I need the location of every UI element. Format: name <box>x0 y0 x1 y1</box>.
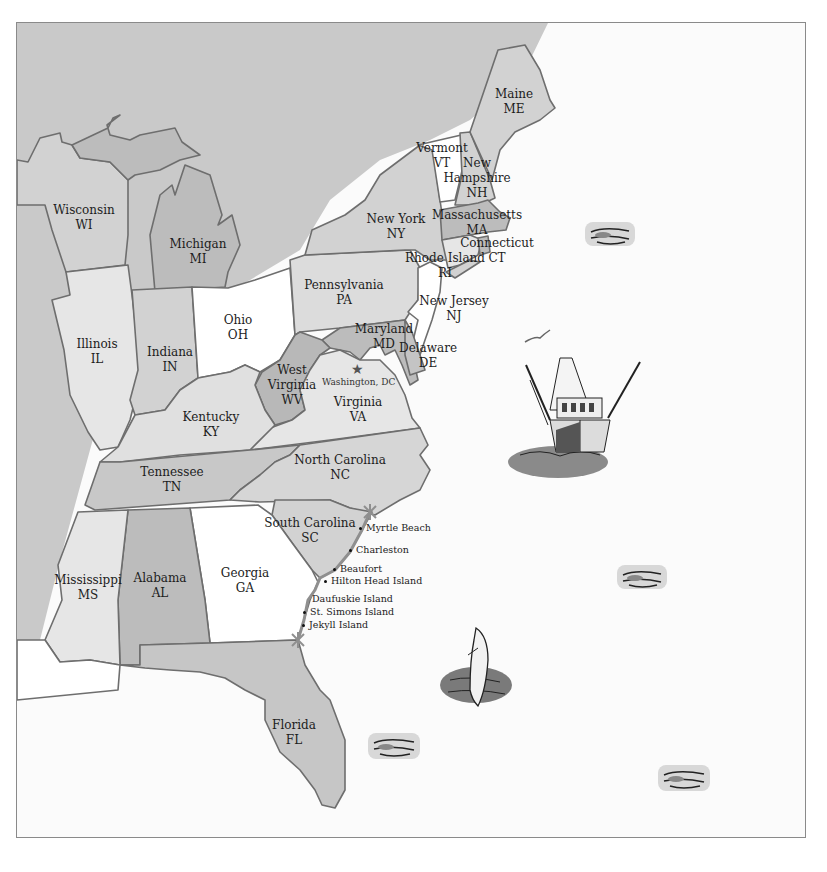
place-st-simons: St. Simons Island <box>303 606 394 617</box>
place-charleston: Charleston <box>349 544 409 555</box>
place-myrtle-beach: Myrtle Beach <box>359 522 431 533</box>
dolphin-icon <box>440 628 512 706</box>
label-PA: PennsylvaniaPA <box>304 278 384 308</box>
map-canvas <box>0 0 827 872</box>
label-MS: MississippiMS <box>54 573 122 603</box>
dot-icon <box>324 580 327 583</box>
label-VA: VirginiaVA <box>334 395 382 425</box>
place-hilton-head: Hilton Head Island <box>324 575 422 586</box>
wave-icon <box>617 565 667 589</box>
capital-label: Washington, DC <box>322 377 395 387</box>
seagull-icon <box>525 330 550 342</box>
label-OH: OhioOH <box>224 313 253 343</box>
label-NY: New YorkNY <box>367 212 426 242</box>
label-ME: MaineME <box>495 87 533 117</box>
label-NC: North CarolinaNC <box>294 453 386 483</box>
star-icon: ★ <box>351 362 364 376</box>
label-KY: KentuckyKY <box>183 410 240 440</box>
label-WI: WisconsinWI <box>53 203 115 233</box>
label-IN: IndianaIN <box>147 345 193 375</box>
wave-icon <box>658 765 710 791</box>
label-AL: AlabamaAL <box>133 571 186 601</box>
dot-icon <box>359 527 362 530</box>
dot-icon <box>333 568 336 571</box>
label-MA: MassachusettsMA <box>432 208 522 238</box>
fishing-boat-icon <box>508 358 640 478</box>
label-TN: TennesseeTN <box>140 465 203 495</box>
label-RI: Rhode IslandRI <box>405 251 485 281</box>
dot-icon <box>302 624 305 627</box>
dot-icon <box>303 611 306 614</box>
label-SC: South CarolinaSC <box>264 516 355 546</box>
wave-icon <box>585 222 635 246</box>
label-GA: GeorgiaGA <box>221 566 269 596</box>
label-NJ: New JerseyNJ <box>419 294 488 324</box>
label-IL: IllinoisIL <box>76 337 117 367</box>
place-daufuskie: Daufuskie Island <box>312 593 393 604</box>
place-beaufort: Beaufort <box>333 563 382 574</box>
label-NH: NewHampshireNH <box>443 156 510 201</box>
place-jekyll: Jekyll Island <box>302 619 368 630</box>
label-FL: FloridaFL <box>272 718 316 748</box>
label-MI: MichiganMI <box>170 237 227 267</box>
label-DE: DelawareDE <box>399 341 457 371</box>
wave-icon <box>368 733 420 759</box>
dot-icon <box>349 549 352 552</box>
label-WV: WestVirginiaWV <box>268 363 316 408</box>
